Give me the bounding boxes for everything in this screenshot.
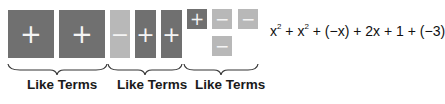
brace-group-3: [184, 64, 258, 75]
operator: +: [281, 23, 297, 39]
term: 2x: [365, 23, 380, 39]
term: (−3): [420, 23, 445, 39]
term: x: [270, 23, 277, 39]
polynomial-expression: x2 + x2 + (−x) + 2x + 1 + (−3): [270, 23, 445, 39]
term: (−x): [325, 23, 350, 39]
exponent: 2: [277, 22, 281, 31]
group-label-3: Like Terms: [195, 77, 265, 92]
operator: +: [380, 23, 396, 39]
operator: +: [404, 23, 420, 39]
group-label-2: Like Terms: [117, 77, 187, 92]
exponent: 2: [304, 22, 308, 31]
brace-group-1: [8, 64, 107, 75]
brace-group-2: [108, 64, 182, 75]
operator: +: [349, 23, 365, 39]
term: 1: [396, 23, 404, 39]
operator: +: [309, 23, 325, 39]
group-label-1: Like Terms: [27, 77, 97, 92]
